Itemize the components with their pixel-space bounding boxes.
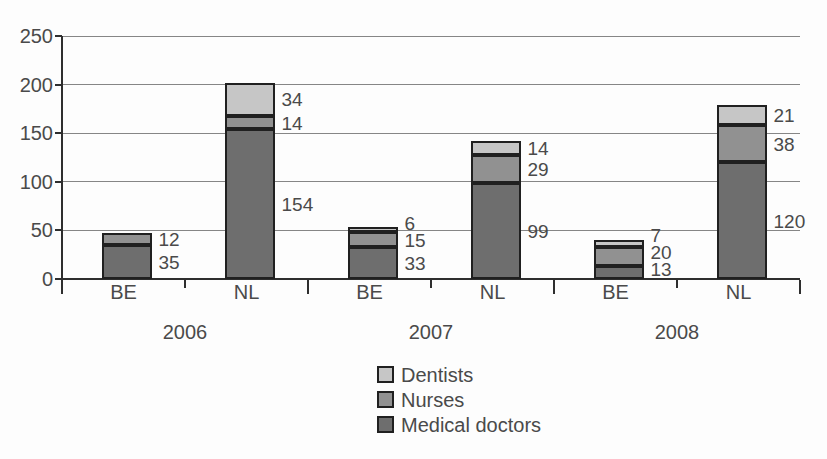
gridline bbox=[62, 181, 800, 182]
value-label: 34 bbox=[282, 90, 303, 109]
category-label: BE bbox=[84, 282, 164, 302]
legend-item-dentists: Dentists bbox=[377, 362, 541, 387]
value-label: 14 bbox=[528, 138, 549, 157]
value-label: 12 bbox=[159, 230, 180, 249]
y-axis-tick-label: 50 bbox=[7, 219, 53, 241]
x-axis-tick bbox=[61, 280, 63, 294]
value-label: 6 bbox=[405, 213, 416, 232]
value-label: 7 bbox=[651, 226, 662, 245]
x-axis-tick bbox=[799, 280, 801, 294]
gridline bbox=[62, 84, 800, 85]
legend-swatch-nurses-icon bbox=[377, 391, 394, 408]
value-label: 33 bbox=[405, 253, 426, 272]
legend-label: Medical doctors bbox=[401, 415, 541, 435]
y-axis-tick-label: 0 bbox=[7, 268, 53, 290]
bar-segment-medical-doctors bbox=[348, 247, 398, 279]
legend: DentistsNursesMedical doctors bbox=[377, 362, 541, 437]
legend-item-nurses: Nurses bbox=[377, 387, 541, 412]
group-label: 2007 bbox=[391, 322, 471, 342]
category-label: NL bbox=[453, 282, 533, 302]
legend-label: Dentists bbox=[401, 365, 473, 385]
y-axis-tick-label: 150 bbox=[7, 122, 53, 144]
stacked-bar-chart: 050100150200250BENLBENLBENL2006200720083… bbox=[0, 0, 827, 459]
group-label: 2006 bbox=[145, 322, 225, 342]
x-axis-tick bbox=[676, 280, 678, 288]
x-axis-tick bbox=[307, 280, 309, 294]
bar-segment-medical-doctors bbox=[225, 129, 275, 279]
category-label: BE bbox=[576, 282, 656, 302]
value-label: 14 bbox=[282, 113, 303, 132]
gridline bbox=[62, 133, 800, 134]
y-axis-line bbox=[61, 36, 63, 282]
legend-swatch-dentists-icon bbox=[377, 366, 394, 383]
legend-item-medical-doctors: Medical doctors bbox=[377, 412, 541, 437]
bar-segment-medical-doctors bbox=[471, 183, 521, 279]
value-label: 120 bbox=[774, 211, 806, 230]
group-label: 2008 bbox=[637, 322, 717, 342]
value-label: 21 bbox=[774, 106, 795, 125]
value-label: 154 bbox=[282, 195, 314, 214]
bar-segment-nurses bbox=[717, 125, 767, 162]
value-label: 38 bbox=[774, 134, 795, 153]
value-label: 35 bbox=[159, 252, 180, 271]
value-label: 29 bbox=[528, 159, 549, 178]
legend-label: Nurses bbox=[401, 390, 464, 410]
x-axis-tick bbox=[184, 280, 186, 288]
bar-segment-medical-doctors bbox=[717, 162, 767, 279]
bar-segment-medical-doctors bbox=[594, 266, 644, 279]
bar-segment-medical-doctors bbox=[102, 245, 152, 279]
bar-segment-dentists bbox=[471, 141, 521, 155]
bar-segment-nurses bbox=[102, 233, 152, 245]
bar-segment-dentists bbox=[348, 227, 398, 233]
bar-segment-dentists bbox=[594, 240, 644, 247]
y-axis-tick-label: 100 bbox=[7, 171, 53, 193]
bar-segment-nurses bbox=[594, 247, 644, 266]
y-axis-tick-label: 250 bbox=[7, 25, 53, 47]
gridline bbox=[62, 36, 800, 37]
x-axis-tick bbox=[430, 280, 432, 288]
category-label: BE bbox=[330, 282, 410, 302]
bar-segment-nurses bbox=[471, 155, 521, 183]
category-label: NL bbox=[699, 282, 779, 302]
bar-segment-nurses bbox=[225, 116, 275, 130]
y-axis-tick-label: 200 bbox=[7, 74, 53, 96]
category-label: NL bbox=[207, 282, 287, 302]
legend-swatch-medical-doctors-icon bbox=[377, 416, 394, 433]
bar-segment-dentists bbox=[225, 83, 275, 116]
bar-segment-nurses bbox=[348, 232, 398, 247]
value-label: 99 bbox=[528, 221, 549, 240]
bar-segment-dentists bbox=[717, 105, 767, 125]
x-axis-tick bbox=[553, 280, 555, 294]
